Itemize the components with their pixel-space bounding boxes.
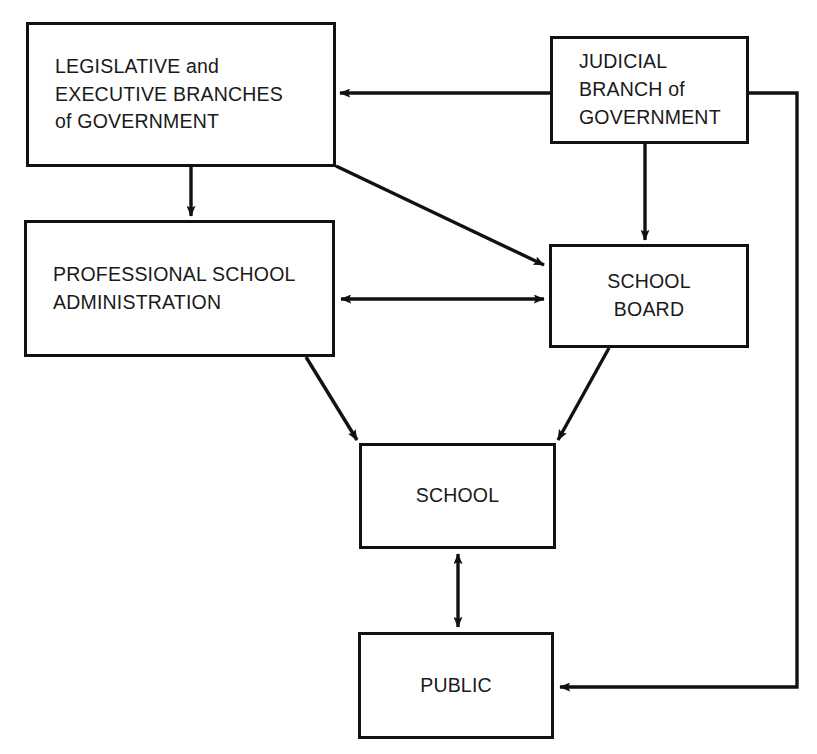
node-label: LEGISLATIVE and EXECUTIVE BRANCHES of GO… — [29, 53, 333, 136]
node-label: SCHOOL BOARD — [552, 268, 746, 323]
node-label: PROFESSIONAL SCHOOL ADMINISTRATION — [27, 261, 332, 316]
edge-schoolboard-to-school — [558, 348, 609, 440]
node-label: SCHOOL — [362, 482, 553, 510]
node-public[interactable]: PUBLIC — [358, 632, 554, 739]
node-label: PUBLIC — [361, 672, 551, 700]
node-professional-school-administration[interactable]: PROFESSIONAL SCHOOL ADMINISTRATION — [24, 220, 335, 357]
edge-judicial-to-public — [560, 93, 797, 687]
node-judicial-branch[interactable]: JUDICIAL BRANCH of GOVERNMENT — [550, 36, 749, 144]
edge-legislative-to-schoolboard — [336, 166, 544, 265]
node-legislative-executive-branches[interactable]: LEGISLATIVE and EXECUTIVE BRANCHES of GO… — [26, 22, 336, 167]
node-school-board[interactable]: SCHOOL BOARD — [549, 244, 749, 348]
edge-admin-to-school — [306, 357, 357, 440]
node-label: JUDICIAL BRANCH of GOVERNMENT — [553, 48, 746, 131]
diagram-canvas: LEGISLATIVE and EXECUTIVE BRANCHES of GO… — [0, 0, 817, 754]
node-school[interactable]: SCHOOL — [359, 443, 556, 549]
